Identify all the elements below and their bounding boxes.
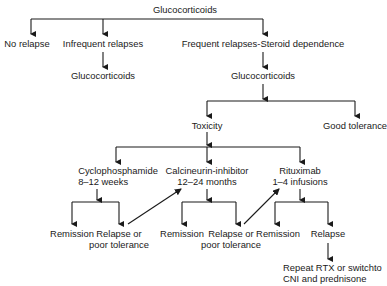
cni-duration: 12–24 months [166,176,249,187]
node-toxicity: Toxicity [192,120,223,131]
cyclo-relapse-line2: poor tolerance [89,239,149,250]
node-cyclophosphamide: Cyclophosphamide 8–12 weeks [78,165,158,187]
final-line1: Repeat RTX or switchto [283,262,382,273]
final-line2: CNI and prednisone [283,273,382,284]
cni-drug: Calcineurin-inhibitor [166,165,249,176]
node-rtx-remission: Remission [256,228,300,239]
node-rituximab: Rituximab 1–4 infusions [272,165,327,187]
treatment-flowchart: Glucocorticoids No relapse Infrequent re… [0,0,387,286]
cyclophosphamide-drug: Cyclophosphamide [78,165,158,176]
node-cyclo-remission: Remission [50,228,94,239]
node-root-glucocorticoids: Glucocorticoids [153,4,217,15]
node-cni-remission: Remission [160,228,204,239]
node-rtx-relapse: Relapse [311,228,345,239]
node-infrequent-relapses: Infrequent relapses [63,38,143,49]
node-repeat-rtx-or-switch: Repeat RTX or switchto CNI and prednison… [283,262,382,284]
cni-relapse-line1: Relapse or [201,228,261,239]
rituximab-drug: Rituximab [272,165,327,176]
node-infrequent-glucocorticoids: Glucocorticoids [71,70,135,81]
cni-relapse-line2: poor tolerance [201,239,261,250]
node-cyclo-relapse: Relapse or poor tolerance [89,228,149,250]
node-frequent-relapses: Frequent relapses-Steroid dependence [182,38,345,49]
node-cni-relapse: Relapse or poor tolerance [201,228,261,250]
node-calcineurin-inhibitor: Calcineurin-inhibitor 12–24 months [166,165,249,187]
cyclophosphamide-duration: 8–12 weeks [78,176,158,187]
node-good-tolerance: Good tolerance [323,120,387,131]
node-frequent-glucocorticoids: Glucocorticoids [231,70,295,81]
node-no-relapse: No relapse [4,38,49,49]
cyclo-relapse-line1: Relapse or [89,228,149,239]
rituximab-dosing: 1–4 infusions [272,176,327,187]
